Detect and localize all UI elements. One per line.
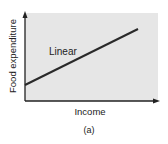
- plot-background: [25, 13, 158, 101]
- figure-caption: (a): [84, 125, 95, 135]
- x-axis-label: Income: [74, 106, 105, 117]
- y-axis-label: Food expenditure: [7, 19, 18, 93]
- series-annotation: Linear: [49, 46, 77, 57]
- chart: Linear Food expenditure Income (a): [0, 0, 168, 144]
